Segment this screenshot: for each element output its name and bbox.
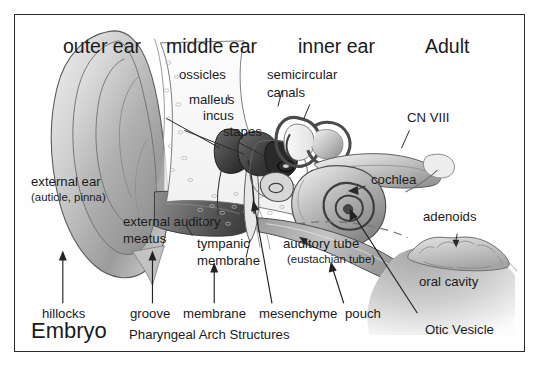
region-label-outer-ear: outer ear [63, 37, 141, 57]
label-cochlea: cochlea [371, 173, 416, 186]
label-ossicles: ossicles [179, 68, 226, 81]
label-cn-viii: CN VIII [407, 111, 450, 124]
label-external-ear-sub: (auticle, pinna) [31, 192, 106, 204]
figure-canvas: outer ear middle ear inner ear Adult oss… [0, 0, 541, 380]
pinna-illustration [51, 31, 174, 285]
label-external-auditory-meatus-line1: external auditory [123, 215, 221, 228]
label-adenoids: adenoids [423, 210, 477, 223]
label-groove: groove [130, 307, 170, 320]
label-semicircular-canals-line2: canals [267, 86, 305, 99]
label-semicircular-canals-line1: semicircular [267, 68, 337, 81]
label-oral-cavity: oral cavity [419, 275, 478, 288]
label-tympanic-membrane-line2: membrane [197, 254, 260, 267]
label-external-ear: external ear [31, 175, 101, 188]
label-external-auditory-meatus-line2: meatus [123, 232, 166, 245]
label-membrane: membrane [183, 307, 246, 320]
region-label-embryo: Embryo [31, 320, 107, 342]
region-label-middle-ear: middle ear [166, 37, 257, 57]
label-malleus: malleus [189, 93, 234, 106]
label-stapes: stapes [223, 125, 262, 138]
label-auditory-tube-sub: (eustachian tube) [287, 254, 375, 266]
label-otic-vesicle: Otic Vesicle [425, 323, 494, 336]
label-incus: incus [203, 109, 234, 122]
label-mesenchyme: mesenchyme [259, 307, 337, 320]
region-label-adult: Adult [425, 37, 469, 57]
figure-frame: outer ear middle ear inner ear Adult oss… [14, 14, 525, 352]
label-auditory-tube: auditory tube [283, 237, 359, 250]
label-tympanic-membrane-line1: tympanic [197, 237, 250, 250]
region-label-inner-ear: inner ear [298, 37, 375, 57]
label-pouch: pouch [345, 307, 381, 320]
label-pharyngeal-arch-structures: Pharyngeal Arch Structures [129, 328, 290, 341]
